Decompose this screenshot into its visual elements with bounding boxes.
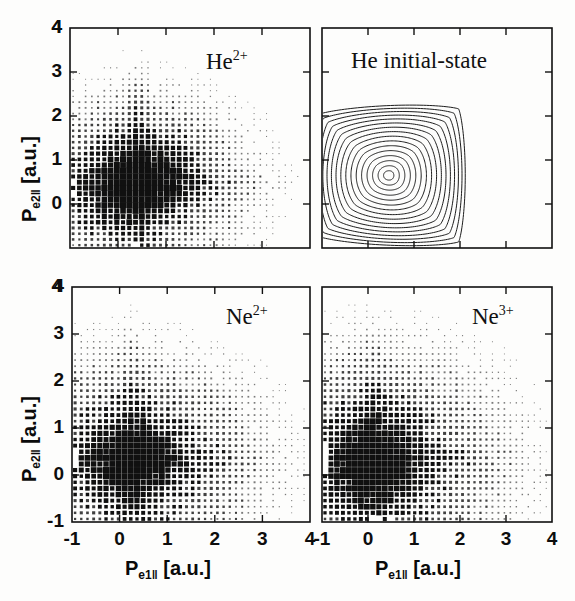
density-marker	[97, 113, 99, 115]
density-marker	[96, 180, 101, 185]
density-marker	[146, 118, 149, 121]
density-marker	[204, 371, 206, 373]
density-marker	[142, 353, 144, 355]
density-marker	[394, 443, 400, 449]
density-marker	[79, 425, 83, 429]
density-marker	[104, 437, 109, 442]
density-marker	[153, 124, 156, 127]
density-marker	[443, 481, 446, 484]
density-marker	[223, 402, 225, 404]
density-marker	[400, 455, 406, 461]
density-marker	[330, 371, 332, 373]
density-marker	[160, 492, 164, 496]
density-marker	[215, 164, 218, 167]
density-marker	[93, 335, 94, 336]
density-marker	[285, 463, 286, 464]
density-marker	[497, 463, 499, 465]
density-marker	[406, 461, 411, 466]
density-marker	[140, 118, 143, 121]
density-marker	[371, 383, 374, 386]
density-marker	[122, 461, 128, 467]
density-marker	[418, 455, 423, 460]
density-marker	[85, 468, 89, 472]
density-marker	[178, 215, 181, 218]
density-marker	[173, 383, 176, 386]
density-marker	[117, 401, 121, 405]
density-marker	[359, 389, 362, 392]
density-marker	[247, 426, 249, 428]
density-marker	[492, 378, 493, 379]
density-marker	[335, 511, 339, 515]
density-marker	[130, 347, 132, 349]
density-marker	[370, 479, 376, 485]
density-marker	[467, 506, 469, 508]
density-marker	[98, 401, 101, 404]
density-marker	[497, 432, 499, 434]
density-marker	[266, 420, 268, 422]
density-marker	[204, 414, 206, 416]
density-marker	[197, 487, 200, 490]
density-marker	[111, 359, 113, 361]
density-marker	[136, 311, 137, 312]
density-marker	[241, 438, 243, 440]
density-marker	[235, 204, 237, 206]
density-marker	[110, 419, 114, 423]
density-marker	[414, 335, 415, 336]
density-marker	[172, 101, 174, 103]
density-marker	[139, 214, 145, 220]
density-marker	[117, 511, 121, 515]
density-marker	[165, 135, 168, 138]
density-marker	[129, 78, 131, 80]
density-marker	[127, 146, 132, 151]
density-marker	[184, 238, 186, 240]
density-marker	[146, 146, 151, 151]
density-marker	[72, 118, 74, 120]
density-marker	[153, 112, 156, 115]
density-marker	[90, 135, 93, 138]
density-marker	[485, 506, 487, 508]
density-marker	[497, 481, 499, 483]
x-tick-label: 1	[152, 528, 182, 550]
density-marker	[102, 180, 107, 185]
density-marker	[217, 347, 218, 348]
density-marker	[498, 372, 499, 373]
density-marker	[406, 480, 411, 485]
density-marker	[114, 168, 120, 174]
density-marker	[419, 383, 422, 386]
density-marker	[384, 341, 386, 343]
density-marker	[370, 430, 376, 436]
density-marker	[111, 371, 113, 373]
density-marker	[160, 486, 164, 490]
density-marker	[148, 365, 150, 367]
density-marker	[184, 468, 189, 473]
density-marker	[75, 323, 76, 324]
density-marker	[167, 371, 169, 373]
density-marker	[279, 142, 280, 143]
density-marker	[394, 431, 399, 436]
density-marker	[228, 463, 231, 466]
density-marker	[303, 439, 304, 440]
density-marker	[166, 499, 169, 502]
density-marker	[260, 222, 261, 223]
density-marker	[425, 419, 429, 423]
density-marker	[424, 456, 428, 460]
density-marker	[129, 377, 132, 380]
density-marker	[122, 473, 128, 479]
density-marker	[407, 383, 410, 386]
density-marker	[216, 432, 219, 435]
density-marker	[462, 377, 464, 379]
density-marker	[407, 431, 411, 435]
density-marker	[116, 431, 122, 437]
density-marker	[370, 413, 375, 418]
density-marker	[354, 305, 355, 306]
density-marker	[126, 202, 132, 208]
density-marker	[266, 136, 267, 137]
density-marker	[414, 353, 416, 355]
density-marker	[198, 420, 201, 423]
density-marker	[190, 204, 193, 207]
density-marker	[534, 500, 535, 501]
density-marker	[515, 451, 517, 453]
contour-level-8	[346, 136, 432, 214]
density-marker	[324, 377, 326, 379]
density-marker	[228, 204, 230, 206]
